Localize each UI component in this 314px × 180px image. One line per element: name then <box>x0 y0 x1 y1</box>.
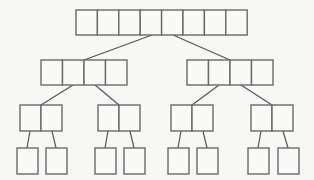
edge-LL-to-LL1 <box>27 131 30 148</box>
tree-node-RL1 <box>168 148 189 174</box>
node-cell <box>97 10 118 35</box>
node-cell <box>95 148 116 174</box>
node-cell <box>124 148 145 174</box>
node-cell <box>76 10 97 35</box>
tree-diagram <box>0 0 314 180</box>
node-cell <box>46 148 67 174</box>
node-cell <box>197 148 218 174</box>
edge-LL-to-LL2 <box>52 131 56 148</box>
edge-R-to-RR <box>241 85 272 105</box>
tree-node-LR2 <box>124 148 145 174</box>
node-cell <box>168 148 189 174</box>
node-cell <box>272 105 293 131</box>
node-cell <box>20 105 41 131</box>
node-cell <box>119 105 140 131</box>
node-cell <box>106 60 128 85</box>
edge-RR-to-RR1 <box>258 131 261 148</box>
edge-LR-to-LR2 <box>130 131 134 148</box>
edge-root-to-R <box>173 35 230 60</box>
node-cell <box>119 10 140 35</box>
edge-root-to-L <box>84 35 152 60</box>
tree-node-RR2 <box>278 148 299 174</box>
node-cell <box>278 148 299 174</box>
tree-edges <box>27 35 288 148</box>
tree-node-RL <box>171 105 213 131</box>
edge-LR-to-LR1 <box>105 131 108 148</box>
node-cell <box>171 105 192 131</box>
tree-node-L <box>41 60 127 85</box>
tree-node-LR <box>98 105 140 131</box>
node-cell <box>251 105 272 131</box>
node-cell <box>98 105 119 131</box>
node-cell <box>63 60 85 85</box>
tree-node-LL <box>20 105 62 131</box>
node-cell <box>248 148 269 174</box>
tree-node-R <box>187 60 273 85</box>
node-cell <box>84 60 106 85</box>
edge-RL-to-RL1 <box>178 131 181 148</box>
node-cell <box>192 105 213 131</box>
tree-nodes <box>17 10 299 174</box>
node-cell <box>41 105 62 131</box>
node-cell <box>17 148 38 174</box>
node-cell <box>140 10 161 35</box>
tree-node-LL2 <box>46 148 67 174</box>
node-cell <box>230 60 252 85</box>
node-cell <box>41 60 63 85</box>
edge-RL-to-RL2 <box>203 131 207 148</box>
node-cell <box>162 10 183 35</box>
edge-RR-to-RR2 <box>283 131 288 148</box>
node-cell <box>187 60 209 85</box>
tree-node-RR <box>251 105 293 131</box>
node-cell <box>226 10 247 35</box>
node-cell <box>183 10 204 35</box>
tree-node-RR1 <box>248 148 269 174</box>
edge-R-to-RL <box>192 85 219 105</box>
tree-node-LL1 <box>17 148 38 174</box>
tree-node-root <box>76 10 247 35</box>
edge-L-to-LR <box>95 85 119 105</box>
node-cell <box>252 60 274 85</box>
tree-node-RL2 <box>197 148 218 174</box>
node-cell <box>204 10 225 35</box>
tree-node-LR1 <box>95 148 116 174</box>
node-cell <box>209 60 231 85</box>
edge-L-to-LL <box>41 85 73 105</box>
